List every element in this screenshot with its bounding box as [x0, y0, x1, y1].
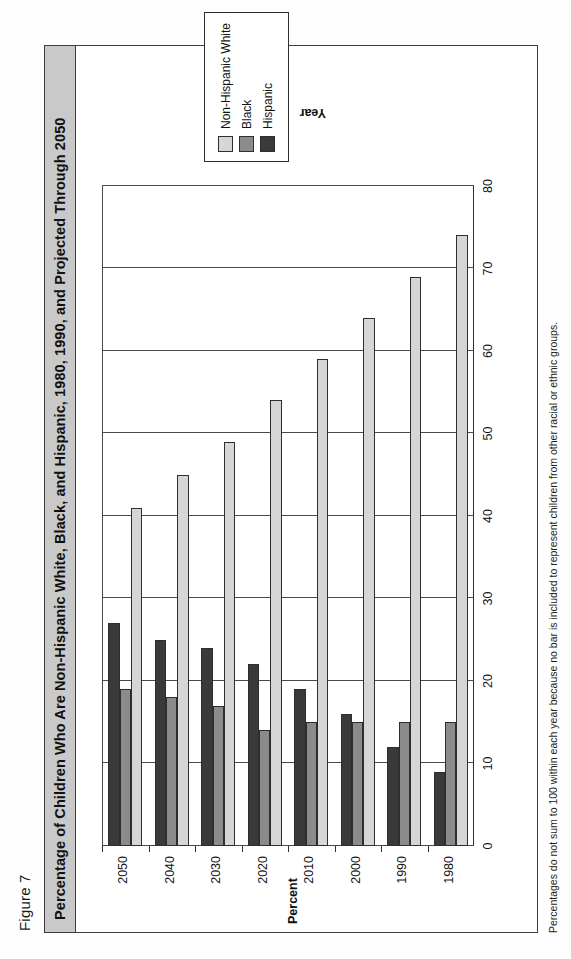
bar [434, 772, 445, 846]
bar-group [195, 186, 242, 846]
chart-legend: Non-Hispanic WhiteBlackHispanic [204, 12, 289, 162]
bar-group [288, 186, 335, 846]
axis-tick [428, 846, 429, 852]
bar-group [242, 186, 289, 846]
x-axis-tick-label: 2050 [116, 856, 130, 908]
document-page: Figure 7 Percentage of Children Who Are … [0, 0, 571, 959]
y-axis-tick-label: 40 [481, 501, 495, 531]
y-axis-tick-label: 30 [481, 584, 495, 614]
y-axis-tick-label: 50 [481, 419, 495, 449]
bar [120, 689, 131, 846]
y-axis-tick-label: 10 [481, 749, 495, 779]
y-axis-tick-label: 80 [481, 171, 495, 201]
legend-swatch-icon [260, 136, 275, 152]
figure-label: Figure 7 [16, 874, 33, 931]
axis-tick [195, 846, 196, 852]
bar [317, 359, 328, 846]
y-axis-tick-label: 60 [481, 336, 495, 366]
x-axis-tick-label: 2010 [302, 856, 316, 908]
bar [399, 722, 410, 846]
bar-group [149, 186, 196, 846]
bar [166, 698, 177, 847]
bar [131, 508, 142, 846]
legend-item-label: Hispanic [261, 83, 275, 129]
bar-group [428, 186, 475, 846]
bar [341, 714, 352, 846]
bar [201, 648, 212, 846]
figure-title: Percentage of Children Who Are Non-Hispa… [52, 117, 68, 932]
bar [363, 318, 374, 846]
bar-group [335, 186, 382, 846]
bar [108, 623, 119, 846]
legend-item: Hispanic [260, 23, 275, 152]
axis-tick [149, 846, 150, 852]
bar [456, 236, 467, 847]
chart-canvas: 0102030405060708019801990200020102020203… [102, 186, 474, 846]
axis-tick [335, 846, 336, 852]
bar [294, 689, 305, 846]
y-axis-tick-label: 70 [481, 254, 495, 284]
axis-tick [381, 846, 382, 852]
figure-frame: Percentage of Children Who Are Non-Hispa… [44, 45, 538, 933]
legend-item: Black [239, 23, 254, 152]
figure-wrapper: Figure 7 Percentage of Children Who Are … [0, 0, 571, 959]
bar [387, 747, 398, 846]
bar [224, 442, 235, 846]
bar-group [102, 186, 149, 846]
figure-footnote: Percentages do not sum to 100 within eac… [547, 322, 559, 933]
bar [410, 277, 421, 846]
bar [270, 401, 281, 847]
axis-tick [288, 846, 289, 852]
bar [259, 731, 270, 847]
bar [248, 665, 259, 847]
bar [445, 722, 456, 846]
bar [352, 722, 363, 846]
legend-item-label: Black [240, 100, 254, 129]
bar [177, 475, 188, 846]
figure-title-bar: Percentage of Children Who Are Non-Hispa… [45, 46, 76, 932]
axis-tick [102, 846, 103, 852]
axis-tick [242, 846, 243, 852]
x-axis-tick-label: 1990 [395, 856, 409, 908]
legend-swatch-icon [239, 136, 254, 152]
bar [213, 706, 224, 846]
y-axis-tick-label: 0 [481, 831, 495, 861]
x-axis-tick-label: 2040 [163, 856, 177, 908]
bar [306, 722, 317, 846]
legend-swatch-icon [218, 136, 233, 152]
x-axis-tick-label: 1980 [442, 856, 456, 908]
legend-item: Non-Hispanic White [218, 23, 233, 152]
x-axis-tick-label: 2020 [256, 856, 270, 908]
plot-area: Percent Year 010203040506070801980199020… [76, 46, 537, 932]
rotated-figure-container: Figure 7 Percentage of Children Who Are … [0, 0, 571, 959]
y-axis-title: Percent [286, 878, 300, 924]
bar-group [381, 186, 428, 846]
legend-item-label: Non-Hispanic White [219, 23, 233, 129]
x-axis-tick-label: 2030 [209, 856, 223, 908]
x-axis-title: Year [300, 106, 326, 120]
bar [155, 640, 166, 846]
y-axis-tick-label: 20 [481, 666, 495, 696]
x-axis-tick-label: 2000 [349, 856, 363, 908]
